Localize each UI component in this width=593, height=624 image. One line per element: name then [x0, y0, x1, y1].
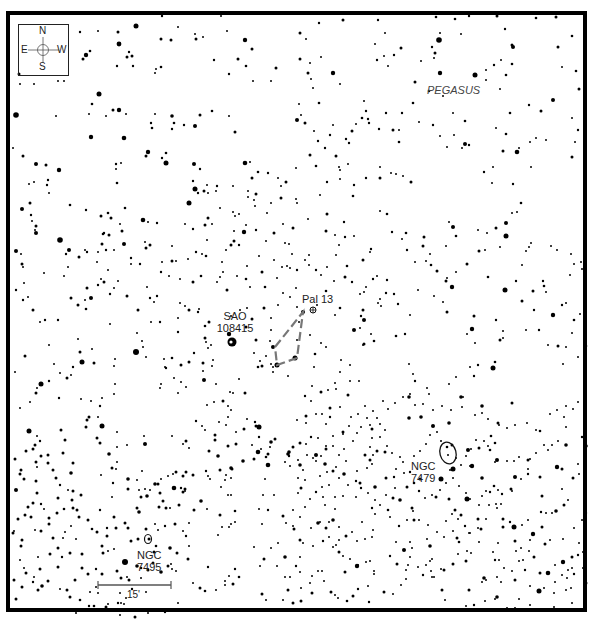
star	[156, 222, 158, 224]
star	[481, 495, 483, 497]
star	[141, 218, 146, 223]
star	[527, 459, 530, 462]
star	[570, 587, 572, 589]
star	[57, 237, 63, 243]
star	[543, 285, 546, 288]
star	[565, 346, 567, 348]
star	[113, 287, 115, 289]
star	[271, 345, 275, 349]
star	[228, 73, 230, 75]
star	[126, 576, 128, 578]
star	[451, 513, 453, 515]
star	[265, 456, 268, 459]
star	[245, 278, 248, 281]
star	[289, 267, 291, 269]
star	[473, 315, 476, 318]
star	[213, 59, 215, 61]
star	[134, 616, 137, 619]
star	[335, 388, 337, 390]
star	[234, 215, 236, 217]
star	[120, 577, 123, 580]
star	[549, 539, 551, 541]
star	[273, 232, 276, 235]
star	[495, 319, 497, 321]
star	[571, 556, 574, 559]
star	[115, 468, 117, 470]
star	[403, 472, 405, 474]
star	[380, 305, 382, 307]
star	[102, 233, 105, 236]
star	[320, 274, 322, 276]
star	[13, 112, 19, 118]
star	[465, 492, 467, 494]
star	[150, 122, 152, 124]
star	[77, 338, 79, 340]
star	[106, 535, 109, 538]
star	[334, 234, 336, 236]
star	[405, 578, 407, 580]
star	[304, 506, 306, 508]
star	[325, 230, 328, 233]
star	[555, 465, 559, 469]
star	[551, 313, 555, 317]
star	[404, 333, 406, 335]
star	[227, 405, 229, 407]
star	[374, 43, 376, 45]
star	[502, 337, 504, 339]
star	[358, 380, 360, 382]
star	[452, 530, 454, 532]
star	[511, 212, 513, 214]
star	[429, 434, 431, 436]
star	[387, 509, 390, 512]
star	[287, 589, 290, 592]
star	[297, 459, 299, 461]
star	[295, 287, 297, 289]
star	[228, 115, 230, 117]
star	[34, 162, 38, 166]
star	[441, 405, 443, 407]
star	[337, 597, 339, 599]
star	[475, 439, 477, 441]
star	[108, 234, 111, 237]
star	[502, 330, 504, 332]
star	[203, 190, 206, 193]
star	[414, 261, 416, 263]
star	[312, 87, 314, 89]
star	[63, 275, 65, 277]
star	[37, 556, 39, 558]
star	[392, 497, 395, 500]
star	[373, 570, 375, 572]
star	[515, 150, 520, 155]
star	[385, 112, 387, 114]
star	[207, 192, 209, 194]
star	[541, 495, 544, 498]
star	[241, 459, 245, 463]
star	[396, 563, 399, 566]
star	[214, 439, 217, 442]
star	[103, 281, 106, 284]
star	[577, 463, 579, 465]
star	[571, 567, 573, 569]
star	[561, 574, 563, 576]
star	[461, 147, 463, 149]
star	[342, 472, 346, 476]
star	[188, 309, 191, 312]
star	[342, 431, 345, 434]
star	[360, 487, 362, 489]
star	[70, 374, 72, 376]
star	[25, 572, 28, 575]
star	[225, 249, 227, 251]
star	[425, 564, 427, 566]
star	[48, 344, 50, 346]
star	[116, 431, 118, 433]
star	[44, 319, 46, 321]
star	[200, 275, 203, 278]
star	[332, 546, 334, 548]
star	[511, 63, 514, 66]
star	[265, 355, 267, 357]
star	[208, 450, 211, 453]
star	[338, 551, 341, 554]
star	[188, 361, 191, 364]
star	[199, 499, 203, 503]
star	[445, 245, 447, 247]
